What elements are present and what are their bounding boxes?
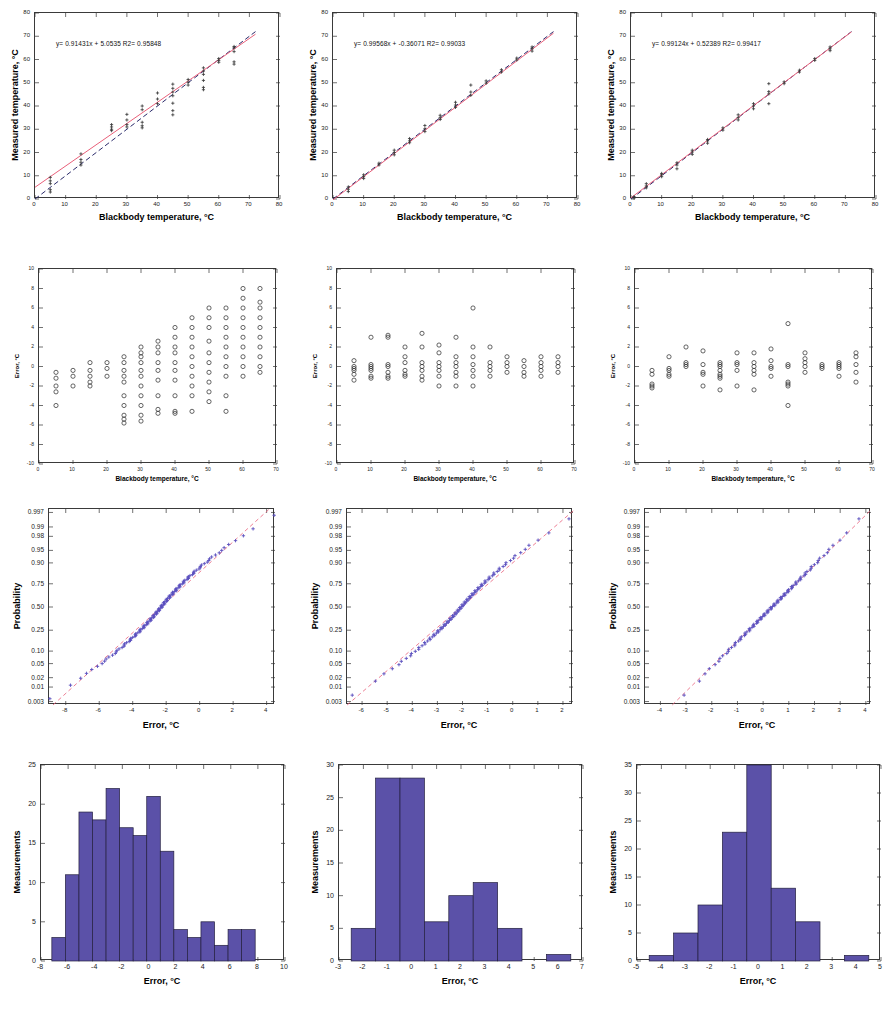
x-tick-label: 3	[829, 963, 833, 970]
x-tick-label: 0	[633, 466, 636, 472]
y-tick-label: -10	[596, 460, 630, 466]
y-tick-label: 0.75	[596, 579, 640, 586]
y-tick-label: -8	[298, 441, 332, 447]
y-tick-label: 0.25	[596, 626, 640, 633]
plot-area	[48, 508, 274, 704]
panel-r2c1: 010203040506070-10-8-6-4-20246810Blackbo…	[0, 262, 298, 487]
panel-r2c2: 010203040506070-10-8-6-4-20246810Blackbo…	[298, 262, 596, 487]
x-tick-label: 40	[451, 201, 458, 207]
panel-r3c2: -6-5-4-3-2-10120.0030.010.020.050.100.25…	[298, 500, 596, 750]
y-tick-label: 4	[0, 324, 34, 330]
x-axis-label: Blackbody temperature, °C	[336, 475, 574, 482]
y-tick-label: 5	[596, 929, 632, 936]
x-tick-label: 40	[469, 466, 475, 472]
x-tick-label: 40	[171, 466, 177, 472]
y-tick-label: 0.95	[596, 546, 640, 553]
y-tick-label: 2	[596, 343, 630, 349]
x-tick-label: 6	[228, 963, 232, 970]
panel-r1c3: y= 0.99124x + 0.52389 R2= 0.994170102030…	[596, 6, 893, 221]
y-tick-label: 0.25	[298, 626, 342, 633]
x-tick-label: 20	[92, 201, 99, 207]
y-tick-label: 0.10	[298, 647, 342, 654]
x-tick-label: 0	[146, 963, 150, 970]
y-tick-label: 5	[0, 917, 36, 924]
y-axis-label: Probability	[310, 583, 320, 630]
y-axis-label: Probability	[12, 583, 22, 630]
x-tick-label: 80	[872, 201, 879, 207]
x-tick-label: 3	[838, 707, 841, 713]
y-tick-label: 0.75	[0, 579, 44, 586]
x-tick-label: -4	[657, 963, 663, 970]
regression-equation: y= 0.99124x + 0.52389 R2= 0.99417	[652, 40, 761, 47]
y-tick-label: 4	[298, 324, 332, 330]
y-axis-label: Measurements	[12, 830, 22, 893]
y-tick-label: -4	[298, 402, 332, 408]
x-tick-label: 20	[390, 201, 397, 207]
panel-r1c2: y= 0.99568x + -0.36071 R2= 0.99033010203…	[298, 6, 596, 221]
panel-r3c3: -4-3-2-1012340.0030.010.020.050.100.250.…	[596, 500, 893, 750]
x-tick-label: -2	[163, 707, 168, 713]
x-tick-label: 10	[69, 466, 75, 472]
y-axis-label: Error, °C	[610, 353, 616, 377]
x-tick-label: -2	[706, 963, 712, 970]
x-tick-label: 60	[214, 201, 221, 207]
x-tick-label: 70	[841, 201, 848, 207]
y-tick-label: -4	[0, 402, 34, 408]
x-tick-label: 20	[699, 466, 705, 472]
x-tick-label: 50	[801, 466, 807, 472]
y-tick-label: 5	[298, 924, 334, 931]
plot-canvas	[645, 509, 871, 705]
y-tick-label: 25	[596, 817, 632, 824]
plot-canvas	[337, 269, 575, 464]
x-tick-label: 10	[280, 963, 288, 970]
y-tick-label: 70	[0, 32, 30, 38]
y-tick-label: 8	[298, 285, 332, 291]
y-tick-label: 0.95	[0, 546, 44, 553]
regression-equation: y= 0.91431x + 5.0535 R2= 0.95848	[56, 40, 161, 47]
x-tick-label: 2	[174, 963, 178, 970]
y-tick-label: 0	[0, 957, 36, 964]
x-tick-label: 10	[367, 466, 373, 472]
y-axis-label: Error, °C	[312, 353, 318, 377]
y-axis-label: Measured temperature, °C	[606, 49, 616, 161]
y-tick-label: 70	[298, 32, 328, 38]
y-tick-label: -8	[596, 441, 630, 447]
x-tick-label: -6	[96, 707, 101, 713]
y-tick-label: 0.02	[596, 673, 640, 680]
x-tick-label: 20	[103, 466, 109, 472]
regression-equation: y= 0.99568x + -0.36071 R2= 0.99033	[354, 40, 465, 47]
x-tick-label: 2	[458, 963, 462, 970]
x-tick-label: -4	[409, 707, 414, 713]
y-tick-label: 0.05	[0, 659, 44, 666]
y-tick-label: 20	[0, 800, 36, 807]
y-tick-label: 30	[596, 789, 632, 796]
x-tick-label: 70	[571, 466, 577, 472]
x-tick-label: 0	[37, 466, 40, 472]
x-tick-label: 1	[780, 963, 784, 970]
y-tick-label: 8	[0, 285, 34, 291]
y-tick-label: 25	[0, 761, 36, 768]
y-tick-label: 2	[0, 343, 34, 349]
panel-r4c1: -8-6-4-202468100510152025Error, °CMeasur…	[0, 756, 298, 1011]
y-tick-label: 35	[596, 761, 632, 768]
x-tick-label: 2	[805, 963, 809, 970]
x-tick-label: -4	[91, 963, 97, 970]
x-tick-label: 4	[201, 963, 205, 970]
x-tick-label: -5	[384, 707, 389, 713]
y-tick-label: 6	[298, 304, 332, 310]
y-tick-label: 0.99	[298, 522, 342, 529]
y-tick-label: 10	[596, 172, 626, 178]
plot-area	[346, 508, 572, 704]
x-tick-label: 0	[760, 707, 763, 713]
panel-r2c3: 010203040506070-10-8-6-4-20246810Blackbo…	[596, 262, 893, 487]
y-tick-label: 6	[596, 304, 630, 310]
y-axis-label: Measurements	[608, 830, 618, 893]
x-tick-label: -2	[708, 707, 713, 713]
x-tick-label: 6	[556, 963, 560, 970]
y-tick-label: 10	[0, 265, 34, 271]
y-tick-label: 0.99	[596, 522, 640, 529]
x-tick-label: -2	[118, 963, 124, 970]
x-tick-label: 60	[537, 466, 543, 472]
y-tick-label: -6	[298, 421, 332, 427]
y-tick-label: -10	[0, 460, 34, 466]
